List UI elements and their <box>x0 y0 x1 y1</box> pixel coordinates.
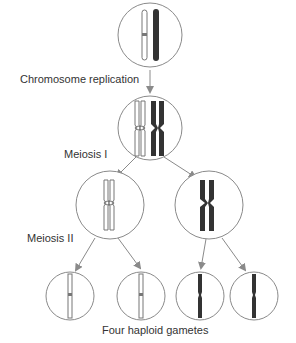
meiosis2-arrow-2 <box>118 238 140 268</box>
meiosis1-arrow-right <box>164 157 195 177</box>
replicated-cell <box>118 96 182 160</box>
meiosis2-label: Meiosis II <box>27 232 73 244</box>
gamete-1 <box>46 272 94 320</box>
meiosis2-arrow-4 <box>222 238 245 270</box>
parent-cell <box>118 3 182 67</box>
replication-label: Chromosome replication <box>20 73 139 85</box>
meiosis2-arrow-1 <box>76 238 95 270</box>
meiosis-diagram <box>0 0 296 343</box>
gamete-2 <box>117 272 165 320</box>
daughter-cell-left <box>76 171 144 239</box>
dark-chromosome <box>153 9 159 61</box>
gamete-3 <box>176 272 224 320</box>
meiosis2-arrow-3 <box>201 239 206 268</box>
daughter-cell-right <box>175 171 243 239</box>
gamete-4 <box>230 272 278 320</box>
meiosis1-label: Meiosis I <box>64 148 107 160</box>
gametes-label: Four haploid gametes <box>102 324 208 336</box>
